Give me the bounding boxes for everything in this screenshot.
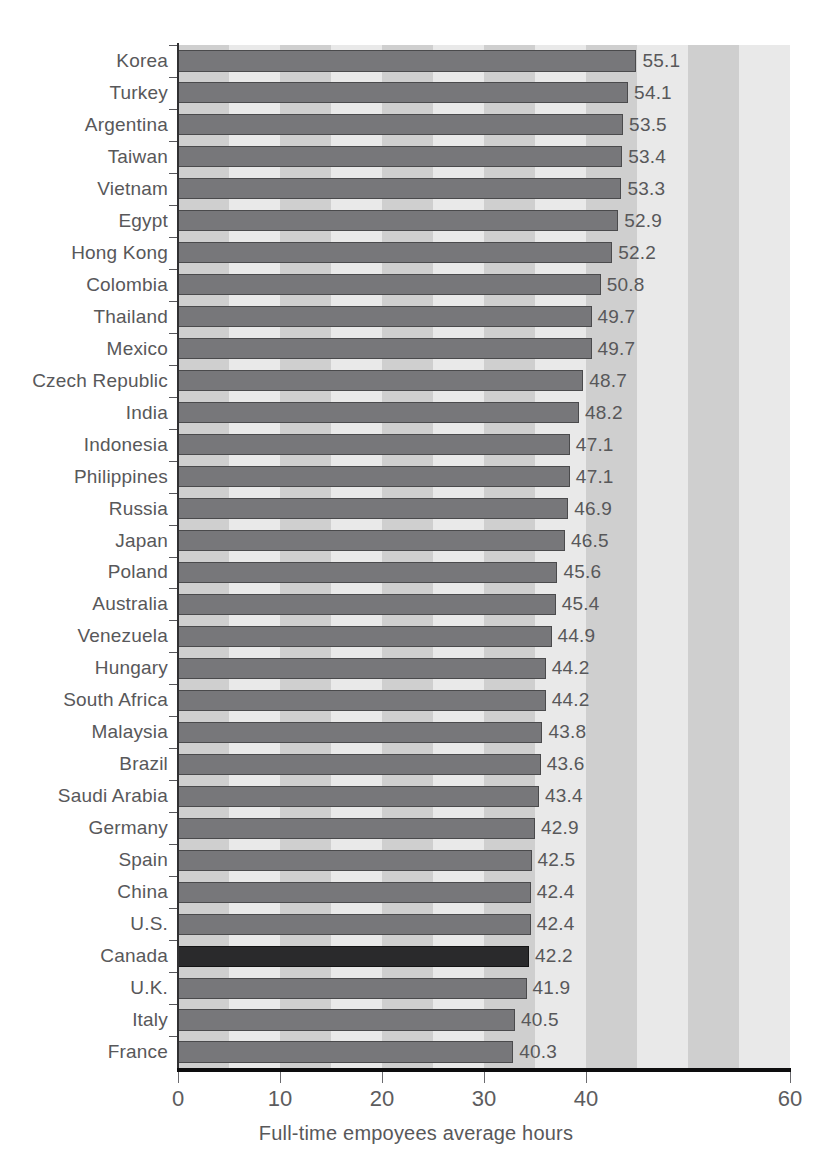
x-axis-tick [382,1072,383,1083]
bar-france[interactable] [178,1041,513,1062]
bar-value-label: 55.1 [636,50,680,72]
bar-vietnam[interactable] [178,178,621,199]
bar-australia[interactable] [178,594,556,615]
bar-row: 41.9 [178,978,790,999]
x-axis-tick [484,1072,485,1083]
bar-south-africa[interactable] [178,690,546,711]
bar-row: 44.2 [178,690,790,711]
bar-value-label: 42.2 [529,945,573,967]
bar-row: 42.5 [178,850,790,871]
bar-row: 49.7 [178,338,790,359]
bar-egypt[interactable] [178,210,618,231]
category-label-venezuela: Venezuela [77,625,168,647]
bar-italy[interactable] [178,1009,515,1030]
bar-value-label: 45.6 [557,561,601,583]
bar-spain[interactable] [178,850,532,871]
category-row: Australia [0,588,168,620]
x-axis-tick-label: 30 [472,1086,496,1112]
bar-mexico[interactable] [178,338,592,359]
bar-row: 48.7 [178,370,790,391]
bar-value-label: 43.4 [539,785,583,807]
category-label-argentina: Argentina [85,114,168,136]
category-row: Mexico [0,333,168,365]
category-row: Korea [0,45,168,77]
bar-germany[interactable] [178,818,535,839]
category-label-south-africa: South Africa [63,689,168,711]
category-row: Czech Republic [0,365,168,397]
category-row: Philippines [0,461,168,493]
category-label-czech-republic: Czech Republic [32,370,168,392]
bar-hong-kong[interactable] [178,242,612,263]
bar-row: 47.1 [178,466,790,487]
category-label-italy: Italy [132,1009,168,1031]
bar-value-label: 49.7 [592,338,636,360]
category-row: China [0,876,168,908]
bar-row: 52.2 [178,242,790,263]
x-axis-tick-label: 0 [172,1086,184,1112]
bar-argentina[interactable] [178,114,623,135]
category-axis-labels: KoreaTurkeyArgentinaTaiwanVietnamEgyptHo… [0,45,168,1068]
category-label-turkey: Turkey [109,82,168,104]
bar-row: 52.9 [178,210,790,231]
category-row: Venezuela [0,620,168,652]
category-row: Egypt [0,205,168,237]
y-axis-line [177,43,179,1070]
bar-value-label: 52.9 [618,210,662,232]
bar-row: 54.1 [178,82,790,103]
category-label-australia: Australia [92,593,168,615]
bar-canada[interactable] [178,946,529,967]
category-label-spain: Spain [118,849,168,871]
bar-brazil[interactable] [178,754,541,775]
bar-saudi-arabia[interactable] [178,786,539,807]
category-label-germany: Germany [88,817,168,839]
bar-value-label: 40.5 [515,1009,559,1031]
bar-philippines[interactable] [178,466,570,487]
bar-row: 46.9 [178,498,790,519]
bar-turkey[interactable] [178,82,628,103]
bar-russia[interactable] [178,498,568,519]
bar-china[interactable] [178,882,531,903]
bar-row: 48.2 [178,402,790,423]
bar-value-label: 42.5 [532,849,576,871]
category-label-saudi-arabia: Saudi Arabia [58,785,168,807]
bar-hungary[interactable] [178,658,546,679]
x-axis-tick [790,1072,791,1083]
bar-row: 53.3 [178,178,790,199]
x-axis-tick-label: 60 [778,1086,802,1112]
bar-row: 44.9 [178,626,790,647]
bar-u-k-[interactable] [178,978,527,999]
bar-row: 42.4 [178,914,790,935]
bar-korea[interactable] [178,50,636,71]
bar-value-label: 50.8 [601,274,645,296]
category-row: South Africa [0,684,168,716]
bar-thailand[interactable] [178,306,592,327]
bar-taiwan[interactable] [178,146,622,167]
bar-india[interactable] [178,402,579,423]
bar-japan[interactable] [178,530,565,551]
category-row: Hungary [0,652,168,684]
bar-u-s-[interactable] [178,914,531,935]
bar-malaysia[interactable] [178,722,542,743]
x-axis-tick [586,1072,587,1083]
bar-indonesia[interactable] [178,434,570,455]
bar-value-label: 42.4 [531,913,575,935]
category-label-colombia: Colombia [86,274,168,296]
bar-value-label: 44.2 [546,689,590,711]
bar-row: 50.8 [178,274,790,295]
category-label-vietnam: Vietnam [97,178,168,200]
bar-row: 42.4 [178,882,790,903]
category-row: Malaysia [0,716,168,748]
bar-value-label: 45.4 [556,593,600,615]
bar-row: 43.4 [178,786,790,807]
category-row: Taiwan [0,141,168,173]
category-row: Argentina [0,109,168,141]
bar-poland[interactable] [178,562,557,583]
bar-colombia[interactable] [178,274,601,295]
x-axis-tick [280,1072,281,1083]
bar-value-label: 53.5 [623,114,667,136]
bar-value-label: 53.4 [622,146,666,168]
bar-venezuela[interactable] [178,626,552,647]
bar-czech-republic[interactable] [178,370,583,391]
category-label-france: France [108,1041,168,1063]
category-label-japan: Japan [115,530,168,552]
